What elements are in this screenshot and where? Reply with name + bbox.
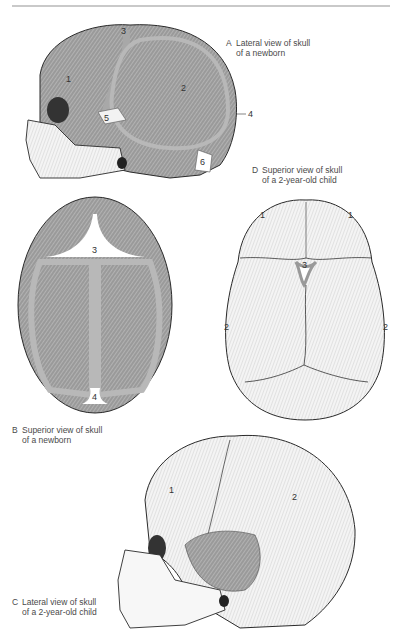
skull-illustrations: 1 2 3 4 5 6 3 4 1 1 2 2 3 1 2 xyxy=(0,0,404,638)
label-1: 1 xyxy=(169,485,174,495)
caption-d-letter: D xyxy=(252,165,262,175)
label-6: 6 xyxy=(200,157,205,167)
panel-a-skull: 1 2 3 4 5 6 xyxy=(26,25,253,178)
caption-d-line2: of a 2-year-old child xyxy=(252,175,342,185)
panel-d-skull: 1 1 2 2 3 xyxy=(224,200,388,420)
label-1: 1 xyxy=(66,74,71,84)
panel-c-skull: 1 2 xyxy=(118,435,355,628)
label-1-right: 1 xyxy=(348,210,353,220)
label-2-right: 2 xyxy=(383,322,388,332)
label-2: 2 xyxy=(181,83,186,93)
label-1-left: 1 xyxy=(260,210,265,220)
label-4: 4 xyxy=(248,109,253,119)
caption-c: CLateral view of skull of a 2-year-old c… xyxy=(12,597,97,617)
caption-a-line1: Lateral view of skull xyxy=(236,38,310,48)
label-2: 2 xyxy=(292,492,297,502)
label-2-left: 2 xyxy=(224,322,229,332)
label-3: 3 xyxy=(121,26,126,36)
panel-b-skull: 3 4 xyxy=(18,197,172,413)
caption-c-line2: of a 2-year-old child xyxy=(12,607,97,617)
caption-a-letter: A xyxy=(226,38,236,48)
caption-d-line1: Superior view of skull xyxy=(262,165,342,175)
label-4: 4 xyxy=(92,392,97,402)
caption-b-line2: of a newborn xyxy=(12,435,102,445)
caption-c-letter: C xyxy=(12,597,22,607)
label-5: 5 xyxy=(104,113,109,123)
caption-b-line1: Superior view of skull xyxy=(22,425,102,435)
caption-c-line1: Lateral view of skull xyxy=(22,597,96,607)
label-3: 3 xyxy=(302,260,307,270)
caption-b: BSuperior view of skull of a newborn xyxy=(12,425,102,445)
caption-b-letter: B xyxy=(12,425,22,435)
label-3: 3 xyxy=(92,245,97,255)
caption-a: ALateral view of skull of a newborn xyxy=(226,38,310,58)
caption-a-line2: of a newborn xyxy=(226,48,310,58)
caption-d: DSuperior view of skull of a 2-year-old … xyxy=(252,165,342,185)
